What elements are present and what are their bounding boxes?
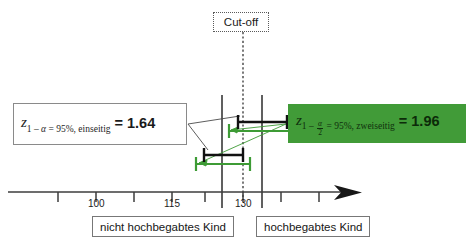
subscript-rest-green: = 95%, zweiseitig xyxy=(324,122,395,132)
alpha-over-two-fraction: α2 xyxy=(317,120,323,136)
equals-sign-two-sided: = xyxy=(399,114,407,129)
region-label-not-gifted-text: nicht hochbegabtes Kind xyxy=(100,221,226,233)
tick-label-100: 100 xyxy=(88,198,105,209)
cutoff-label-text: Cut-off xyxy=(224,16,258,28)
equals-sign-one-sided: = xyxy=(115,116,123,131)
leader-lines-one-sided xyxy=(188,116,240,150)
subscript-prefix: 1 – xyxy=(27,124,41,134)
region-label-gifted[interactable]: hochbegabtes Kind xyxy=(256,216,370,237)
tick-label-130: 130 xyxy=(235,198,252,209)
tick-label-115: 115 xyxy=(164,198,180,209)
cutoff-label-box[interactable]: Cut-off xyxy=(213,12,269,32)
region-label-not-gifted[interactable]: nicht hochbegabtes Kind xyxy=(92,216,234,237)
value-two-sided: 1.96 xyxy=(411,114,439,129)
value-one-sided: 1.64 xyxy=(127,116,155,131)
subscript-prefix-green: 1 – xyxy=(302,122,316,132)
subscript-one-sided: 1 – α = 95%, einseitig xyxy=(27,125,111,135)
figure-canvas: Cut-off z 1 – α = 95%, einseitig = 1.64 … xyxy=(0,0,473,246)
interval-lower-one-sided xyxy=(204,148,243,162)
subscript-rest: = 95%, einseitig xyxy=(46,124,110,134)
formula-one-sided: z 1 – α = 95%, einseitig = 1.64 xyxy=(21,117,155,132)
subscript-two-sided: 1 – α2 = 95%, zweiseitig xyxy=(302,119,395,135)
formula-box-one-sided[interactable]: z 1 – α = 95%, einseitig = 1.64 xyxy=(13,103,187,145)
two-denominator: 2 xyxy=(317,129,323,137)
formula-box-two-sided[interactable]: z 1 – α2 = 95%, zweiseitig = 1.96 xyxy=(288,104,466,143)
region-label-gifted-text: hochbegabtes Kind xyxy=(264,221,362,233)
formula-two-sided: z 1 – α2 = 95%, zweiseitig = 1.96 xyxy=(296,115,440,133)
